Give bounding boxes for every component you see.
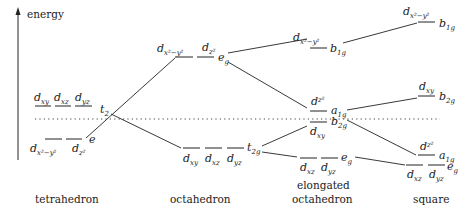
caption-tetrahedron: tetrahedron bbox=[35, 193, 99, 205]
svg-text:dyz: dyz bbox=[429, 168, 444, 183]
svg-text:dxy: dxy bbox=[310, 125, 326, 140]
elongated-octahedron-levels: dx²−y² b1g dz² a1g dxy b2g dxz dyz eg bbox=[293, 31, 353, 176]
svg-text:eg: eg bbox=[447, 160, 459, 175]
svg-text:dxz: dxz bbox=[54, 91, 69, 106]
svg-text:dxz: dxz bbox=[300, 161, 315, 176]
svg-text:dz²: dz² bbox=[311, 95, 325, 108]
svg-text:dxy: dxy bbox=[419, 80, 435, 95]
svg-text:dyz: dyz bbox=[321, 161, 336, 176]
svg-text:b1g: b1g bbox=[439, 17, 456, 32]
svg-text:dz²: dz² bbox=[202, 41, 216, 56]
caption-octahedron: octahedron bbox=[170, 193, 231, 205]
svg-text:t2g: t2g bbox=[247, 141, 261, 156]
svg-text:dxz: dxz bbox=[407, 168, 422, 183]
svg-text:dxz: dxz bbox=[205, 152, 220, 167]
svg-text:eg: eg bbox=[341, 151, 353, 166]
svg-text:dxy: dxy bbox=[183, 152, 199, 167]
svg-text:dyz: dyz bbox=[75, 91, 90, 106]
caption-elongated: elongated bbox=[297, 179, 350, 191]
svg-text:dz²: dz² bbox=[420, 140, 434, 153]
svg-text:t2: t2 bbox=[100, 103, 109, 118]
diagram-canvas: energy dxy dxz dyz t2 dx²−y² dz² e dx²−y… bbox=[0, 0, 468, 218]
geometry-captions: tetrahedron octahedron elongated octahed… bbox=[35, 179, 449, 205]
svg-text:dx²−y²: dx²−y² bbox=[403, 5, 430, 20]
caption-elongated-octahedron: octahedron bbox=[292, 193, 353, 205]
arrow-up-icon bbox=[16, 7, 21, 15]
svg-text:b1g: b1g bbox=[330, 42, 347, 57]
caption-square: square bbox=[413, 193, 449, 205]
svg-text:b2g: b2g bbox=[439, 90, 456, 105]
tetrahedron-levels: dxy dxz dyz t2 dx²−y² dz² e bbox=[30, 91, 109, 157]
svg-text:dyz: dyz bbox=[227, 152, 242, 167]
energy-axis: energy bbox=[16, 7, 64, 160]
svg-text:dx²−y²: dx²−y² bbox=[30, 142, 57, 157]
svg-text:dx²−y²: dx²−y² bbox=[293, 31, 320, 46]
svg-text:dx²−y²: dx²−y² bbox=[157, 42, 184, 57]
crystal-field-diagram: energy dxy dxz dyz t2 dx²−y² dz² e dx²−y… bbox=[0, 0, 468, 218]
svg-text:dz²: dz² bbox=[72, 142, 86, 157]
square-planar-levels: dx²−y² b1g dxy b2g dz² a1g dxz dyz eg bbox=[403, 5, 459, 183]
svg-text:eg: eg bbox=[218, 51, 230, 66]
svg-text:dxy: dxy bbox=[34, 91, 50, 106]
axis-label: energy bbox=[27, 8, 64, 20]
